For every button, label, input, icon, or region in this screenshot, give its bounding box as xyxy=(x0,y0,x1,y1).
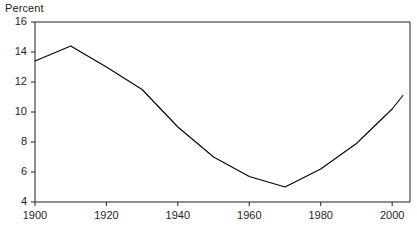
x-tick-label: 2000 xyxy=(372,209,412,221)
chart-plot-area xyxy=(0,0,417,238)
y-tick-label: 14 xyxy=(5,45,27,57)
x-tick-label: 1980 xyxy=(301,209,341,221)
y-tick-label: 4 xyxy=(5,195,27,207)
y-tick-label: 12 xyxy=(5,75,27,87)
x-tick-label: 1960 xyxy=(229,209,269,221)
axis-ticks xyxy=(31,22,392,206)
y-tick-label: 6 xyxy=(5,165,27,177)
y-tick-label: 8 xyxy=(5,135,27,147)
y-tick-label: 10 xyxy=(5,105,27,117)
x-tick-label: 1900 xyxy=(15,209,55,221)
x-tick-label: 1940 xyxy=(158,209,198,221)
data-series-lines xyxy=(35,46,403,187)
chart-container: Percent 46810121416 19001920194019601980… xyxy=(0,0,417,238)
plot-frame xyxy=(35,22,410,202)
y-tick-label: 16 xyxy=(5,15,27,27)
x-tick-label: 1920 xyxy=(86,209,126,221)
